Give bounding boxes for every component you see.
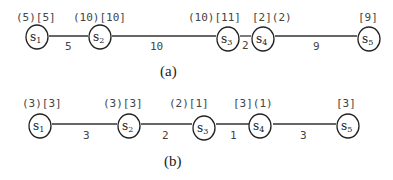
edge-weight: 1 [230, 129, 237, 142]
edge-weight: 5 [65, 40, 72, 53]
node-label: (10)[10] [73, 11, 126, 24]
node-a-s2: s2 [89, 25, 111, 49]
node-b-s2: s2 [118, 114, 140, 138]
node-label: [3] [336, 97, 356, 110]
node-label: (2)[1] [169, 97, 209, 110]
node-a-s5: s5 [358, 27, 380, 51]
node-a-s4: s4 [252, 27, 274, 51]
node-label: (5)[5] [16, 11, 56, 24]
edge-weight: 2 [162, 129, 169, 142]
edge-weight: 10 [150, 40, 163, 53]
edge-weight: 2 [242, 39, 249, 52]
node-label: (10)[11] [188, 11, 241, 24]
caption-b: (b) [164, 153, 182, 170]
node-label: [2](2) [252, 11, 292, 24]
edge-weight: 3 [300, 129, 307, 142]
path-graph-figure: 5 10 2 9 (5)[5] (10)[10] (10)[11] [2](2)… [0, 0, 393, 180]
diagram-b: 3 2 1 3 (3)[3] (3)[3] (2)[1] [3](1) [3] … [22, 97, 359, 170]
node-label: [9] [358, 11, 378, 24]
node-a-s3: s3 [217, 27, 239, 51]
node-b-s5: s5 [337, 114, 359, 138]
node-label: (3)[3] [103, 97, 143, 110]
edge-weight: 9 [313, 40, 320, 53]
diagram-a: 5 10 2 9 (5)[5] (10)[10] (10)[11] [2](2)… [16, 11, 380, 80]
node-b-s1: s1 [29, 114, 51, 138]
node-label: [3](1) [233, 97, 273, 110]
node-b-s4: s4 [249, 114, 271, 138]
node-b-s3: s3 [193, 116, 215, 140]
node-a-s1: s1 [26, 25, 48, 49]
caption-a: (a) [160, 63, 177, 80]
node-label: (3)[3] [22, 97, 62, 110]
edge-weight: 3 [83, 129, 90, 142]
